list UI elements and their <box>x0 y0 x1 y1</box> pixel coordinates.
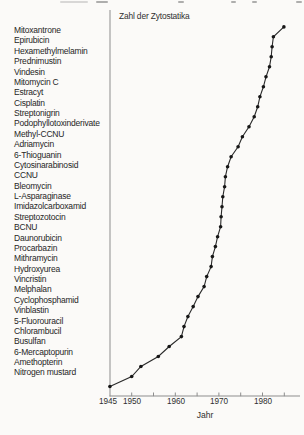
curve-point <box>196 295 200 299</box>
curve-point <box>223 185 227 189</box>
curve-point <box>241 135 245 139</box>
curve-point <box>214 245 218 249</box>
growth-curve <box>110 27 284 387</box>
curve-point <box>229 155 233 159</box>
curve-point <box>226 165 230 169</box>
curve-point <box>108 385 112 389</box>
scanned-chart-page: Zahl der Zytostatika MitoxantroneEpirubi… <box>0 0 304 435</box>
x-axis-title: Jahr <box>197 410 214 420</box>
curve-point <box>216 235 220 239</box>
x-tick-label-1950: 1950 <box>123 397 141 406</box>
curve-point <box>247 125 251 129</box>
curve-point <box>258 95 262 99</box>
cytostatics-growth-chart <box>0 0 304 435</box>
curve-point <box>219 225 223 229</box>
curve-point <box>272 35 276 39</box>
curve-point <box>219 215 223 219</box>
x-tick-label-1980: 1980 <box>254 397 272 406</box>
curve-point <box>270 45 274 49</box>
x-tick-label-1945: 1945 <box>99 397 117 406</box>
curve-point <box>186 315 190 319</box>
x-tick-label-1960: 1960 <box>167 397 185 406</box>
curve-point <box>191 305 195 309</box>
curve-point <box>262 85 266 89</box>
curve-point <box>139 365 143 369</box>
curve-point <box>130 375 134 379</box>
curve-point <box>282 25 286 29</box>
curve-point <box>180 335 184 339</box>
curve-point <box>236 145 240 149</box>
curve-point <box>221 195 225 199</box>
curve-point <box>252 115 256 119</box>
curve-point <box>264 75 268 79</box>
curve-point <box>220 205 224 209</box>
curve-point <box>167 345 171 349</box>
curve-point <box>269 55 273 59</box>
curve-point <box>211 255 215 259</box>
curve-point <box>202 285 206 289</box>
curve-point <box>205 275 209 279</box>
curve-point <box>256 105 260 109</box>
curve-point <box>157 355 161 359</box>
curve-point <box>182 325 186 329</box>
curve-point <box>209 265 213 269</box>
x-tick-label-1970: 1970 <box>210 397 228 406</box>
curve-point <box>268 65 272 69</box>
curve-point <box>224 175 228 179</box>
